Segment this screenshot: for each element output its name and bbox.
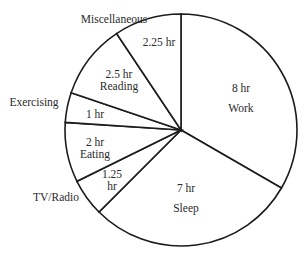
eating-name-label: Eating bbox=[80, 148, 110, 161]
tv-name-label: TV/Radio bbox=[33, 191, 79, 203]
exercising-name-label: Exercising bbox=[9, 96, 58, 109]
sleep-name-label: Sleep bbox=[173, 202, 199, 215]
work-value-label: 8 hr bbox=[232, 82, 250, 94]
misc-name-label: Miscellaneous bbox=[81, 13, 148, 25]
reading-value-label: 2.5 hr bbox=[106, 68, 133, 80]
eating-value-label: 2 hr bbox=[86, 136, 104, 148]
reading-name-label: Reading bbox=[100, 80, 139, 93]
work-name-label: Work bbox=[228, 102, 254, 114]
tv-unit-label: hr bbox=[107, 180, 117, 192]
exercising-value-label: 1 hr bbox=[86, 108, 104, 120]
pie-chart: 8 hr Work 7 hr Sleep 1.25 hr 2 hr Eating… bbox=[0, 0, 306, 257]
tv-value-label: 1.25 bbox=[102, 168, 122, 180]
sleep-value-label: 7 hr bbox=[177, 182, 195, 194]
misc-value-label: 2.25 hr bbox=[143, 36, 176, 48]
